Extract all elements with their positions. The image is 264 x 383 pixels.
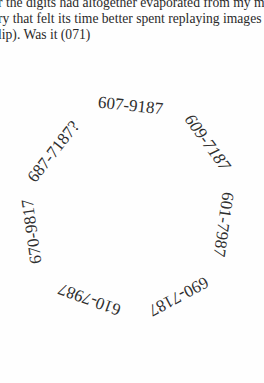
phone-number-right: 601-7987 bbox=[211, 191, 237, 258]
phone-number-upper-right: 609-7187 bbox=[182, 111, 234, 174]
book-page: r the digits had altogether evaporated f… bbox=[0, 0, 264, 383]
phone-number-lower-right: 690-7187 bbox=[146, 274, 212, 320]
phone-number-top: 607-9187 bbox=[97, 94, 164, 118]
phone-number-upper-left: 687-7187? bbox=[24, 118, 82, 186]
phone-number-lower-left: 610-7987 bbox=[56, 280, 123, 318]
phone-number-circle: 607-9187 609-7187 601-7987 690-7187 610-… bbox=[0, 0, 264, 383]
phone-number-left: 670-9817 bbox=[19, 198, 45, 265]
